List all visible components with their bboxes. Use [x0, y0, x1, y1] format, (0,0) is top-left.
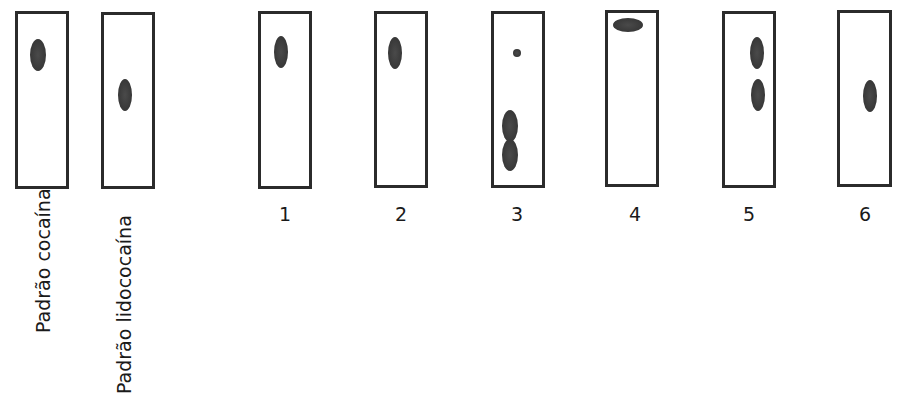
- spot-samples-3-3: [502, 139, 518, 171]
- plate-sample-4: [605, 10, 659, 187]
- spot-standards-2-1: [118, 79, 132, 111]
- plate-sample-2: [374, 11, 428, 188]
- plate-sample-3: [491, 11, 545, 188]
- spot-samples-6-1: [863, 80, 877, 112]
- label-sample-4: 4: [615, 203, 655, 225]
- plate-standard-cocaine: [15, 11, 69, 189]
- spot-standards-1-1: [30, 39, 46, 71]
- spot-samples-5-2: [751, 79, 765, 111]
- label-sample-2: 2: [381, 203, 421, 225]
- spot-samples-3-2: [502, 110, 518, 142]
- spot-samples-4-1: [613, 18, 643, 32]
- plate-sample-1: [258, 11, 312, 189]
- label-sample-1: 1: [265, 203, 305, 225]
- label-sample-3: 3: [497, 203, 537, 225]
- label-sample-5: 5: [729, 203, 769, 225]
- spot-samples-2-1: [388, 37, 402, 69]
- tlc-figure: Padrão cocaína Padrão lidococaína 1 2 3 …: [0, 0, 899, 409]
- spot-samples-1-1: [274, 36, 288, 68]
- label-standard-cocaine: Padrão cocaína: [32, 188, 54, 333]
- label-sample-6: 6: [845, 203, 885, 225]
- spot-samples-3-1: [513, 49, 521, 57]
- spot-samples-5-1: [750, 37, 764, 69]
- plate-sample-5: [722, 11, 776, 188]
- label-standard-lidocaine: Padrão lidococaína: [113, 215, 135, 394]
